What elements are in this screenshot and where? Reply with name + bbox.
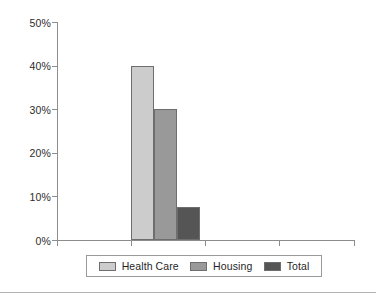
chart-legend: Health Care Housing Total xyxy=(86,255,322,277)
y-tick-label-20: 20% xyxy=(29,147,51,159)
x-axis-line xyxy=(57,240,355,241)
bar-health-care xyxy=(131,66,154,240)
y-tick-label-30: 30% xyxy=(29,104,51,116)
legend-label-health-care: Health Care xyxy=(122,260,179,272)
y-tick-40: 40% xyxy=(57,66,58,67)
y-tick-10: 10% xyxy=(57,196,58,197)
bar-group-0 xyxy=(131,22,205,240)
x-tick-2 xyxy=(205,241,206,246)
y-tick-20: 20% xyxy=(57,153,58,154)
legend-swatch-total xyxy=(264,262,281,271)
y-tick-label-10: 10% xyxy=(29,191,51,203)
x-tick-0 xyxy=(57,241,58,246)
bar-housing xyxy=(154,109,177,240)
y-tick-30: 30% xyxy=(57,109,58,110)
legend-label-housing: Housing xyxy=(213,260,252,272)
y-tick-label-0: 0% xyxy=(35,235,51,247)
y-tick-label-50: 50% xyxy=(29,17,51,29)
plot-area: 50% 40% 30% 20% 10% 0% xyxy=(57,22,355,241)
y-tick-50: 50% xyxy=(57,22,58,23)
legend-swatch-health-care xyxy=(99,262,116,271)
bar-total xyxy=(177,207,200,240)
y-axis-line xyxy=(57,22,58,241)
x-tick-4 xyxy=(354,241,355,246)
legend-entry-housing: Housing xyxy=(190,260,252,272)
legend-entry-health-care: Health Care xyxy=(99,260,179,272)
x-tick-3 xyxy=(279,241,280,246)
legend-label-total: Total xyxy=(287,260,310,272)
y-tick-label-40: 40% xyxy=(29,60,51,72)
x-tick-1 xyxy=(131,241,132,246)
bar-chart-figure: 50% 40% 30% 20% 10% 0% xyxy=(0,0,376,300)
legend-entry-total: Total xyxy=(264,260,310,272)
bottom-divider xyxy=(0,292,376,293)
legend-swatch-housing xyxy=(190,262,207,271)
